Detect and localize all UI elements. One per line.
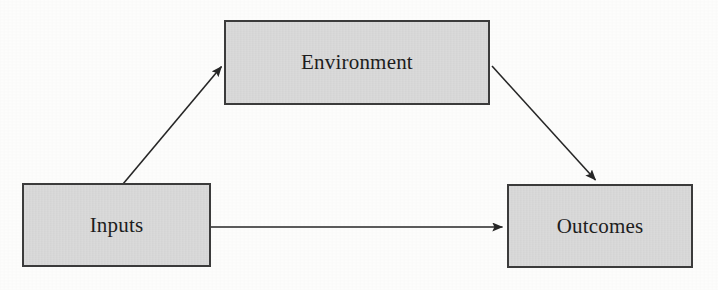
node-outcomes-label: Outcomes bbox=[557, 216, 644, 237]
node-inputs-label: Inputs bbox=[90, 215, 144, 236]
node-outcomes: Outcomes bbox=[507, 184, 693, 268]
edge-inputs-to-environment bbox=[123, 67, 222, 185]
node-inputs: Inputs bbox=[22, 183, 211, 267]
diagram-canvas: Environment Inputs Outcomes bbox=[0, 0, 718, 290]
edge-environment-to-outcomes bbox=[492, 66, 596, 180]
node-environment-label: Environment bbox=[301, 52, 413, 73]
node-environment: Environment bbox=[224, 20, 490, 105]
